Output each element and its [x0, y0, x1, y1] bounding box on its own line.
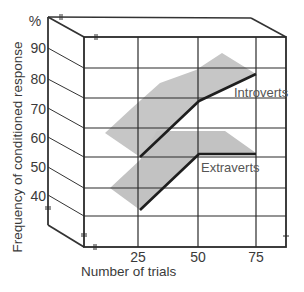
x-tick-50: 50 — [190, 249, 206, 265]
y-tick-90: 90 — [30, 40, 46, 56]
y-tick-60: 60 — [30, 130, 46, 146]
x-tick-75: 75 — [248, 249, 264, 265]
side-panel — [48, 17, 84, 247]
introverts-label: Introverts — [234, 85, 289, 100]
y-tick-40: 40 — [30, 188, 46, 204]
x-axis-title: Number of trials — [81, 264, 177, 279]
extraverts-label: Extraverts — [201, 160, 260, 175]
chart-3d-box: Introverts Extraverts % 90 80 70 60 50 4… — [0, 0, 304, 292]
x-tick-25: 25 — [130, 249, 146, 265]
y-axis-title: Frequency of conditioned response — [10, 42, 25, 253]
y-tick-80: 80 — [30, 71, 46, 87]
y-tick-70: 70 — [30, 101, 46, 117]
y-tick-50: 50 — [30, 159, 46, 175]
y-unit-label: % — [29, 13, 41, 29]
